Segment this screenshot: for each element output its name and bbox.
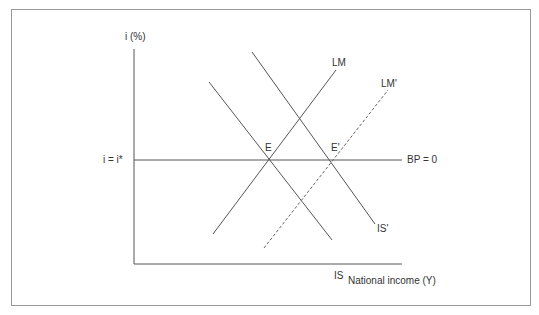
is-label: IS xyxy=(334,271,343,281)
x-axis-label: National income (Y) xyxy=(348,276,436,286)
lm-prime-curve xyxy=(264,90,388,248)
e-prime-label: E' xyxy=(331,143,340,153)
lm-curve xyxy=(213,70,336,234)
y-axis-label: i (%) xyxy=(125,32,146,42)
e-label: E xyxy=(265,143,272,153)
is-prime-label: IS' xyxy=(377,224,388,234)
is-prime-curve xyxy=(252,52,375,224)
is-lm-bp-chart xyxy=(0,0,539,315)
lm-prime-label: LM' xyxy=(381,79,397,89)
is-curve xyxy=(209,82,332,240)
i-star-label: i = i* xyxy=(103,155,123,165)
bp-label: BP = 0 xyxy=(407,155,437,165)
lm-label: LM xyxy=(332,58,346,68)
